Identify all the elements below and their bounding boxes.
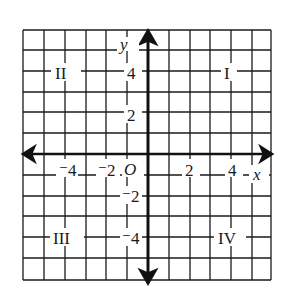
y-axis-down-arrow-icon [141,271,155,283]
coordinate-plane: y x O ⁻4 ⁻2 2 4 4 2 ⁻2 ⁻4 I II III IV [0,0,283,300]
y-axis-label: y [118,35,128,54]
quadrant-label-II: II [55,64,67,83]
quadrant-label-IV: IV [218,229,237,248]
y-axis-up-arrow-icon [141,31,155,43]
y-tick-label: ⁻2 [122,187,140,206]
y-tick-label: 4 [127,64,136,83]
origin-label: O [124,160,136,179]
x-tick-label: ⁻4 [59,161,77,180]
quadrant-label-I: I [224,64,230,83]
y-tick-label: ⁻4 [122,229,140,248]
x-axis-label: x [252,165,261,184]
x-tick-label: 4 [228,161,237,180]
x-tick-label: 2 [185,161,194,180]
x-axis-left-arrow-icon [23,147,34,161]
y-axis [141,31,155,283]
x-tick-label: ⁻2 [98,161,116,180]
y-tick-label: 2 [127,106,136,125]
quadrant-label-III: III [53,229,70,248]
